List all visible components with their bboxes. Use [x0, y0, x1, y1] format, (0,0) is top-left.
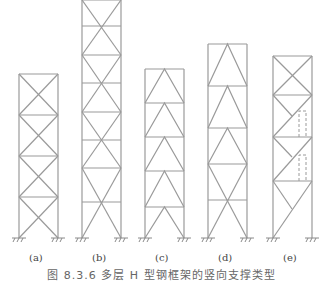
frame-a	[19, 74, 58, 238]
frame-d	[208, 44, 247, 238]
frame-label-a: (a)	[29, 252, 43, 263]
frame-label-b: (b)	[92, 252, 106, 263]
frame-e	[273, 56, 312, 238]
figure-caption: 图 8.3.6 多层 H 型钢框架的竖向支撑类型	[0, 266, 323, 282]
frame-label-c: (c)	[155, 252, 168, 263]
frame-c	[145, 69, 184, 238]
frame-label-e: (e)	[283, 252, 297, 263]
frame-label-d: (d)	[218, 252, 232, 263]
ground-supports	[12, 238, 319, 242]
frame-b	[82, 0, 121, 238]
